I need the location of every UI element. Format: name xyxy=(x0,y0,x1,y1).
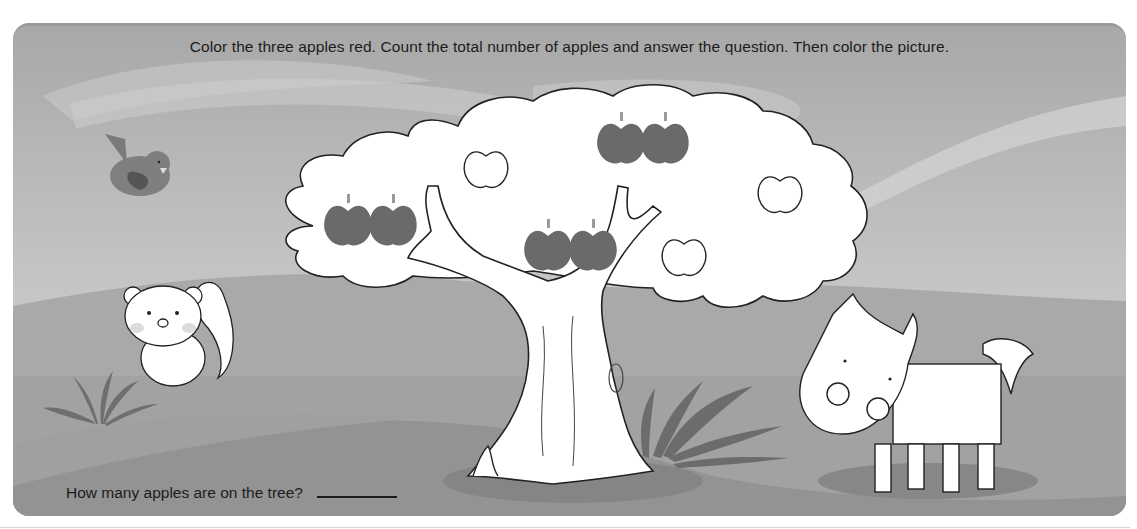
worksheet-page: Color the three apples red. Count the to… xyxy=(0,0,1137,529)
page-divider xyxy=(0,527,1130,528)
scene-illustration xyxy=(13,26,1126,516)
bird xyxy=(105,134,170,196)
question-row: How many apples are on the tree? xyxy=(66,484,397,502)
instruction-text: Color the three apples red. Count the to… xyxy=(13,38,1126,56)
picture-panel: Color the three apples red. Count the to… xyxy=(13,23,1126,516)
answer-blank[interactable] xyxy=(317,495,397,498)
question-text: How many apples are on the tree? xyxy=(66,484,303,502)
